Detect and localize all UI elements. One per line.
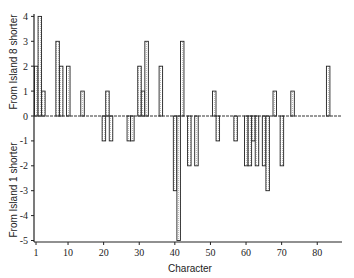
x-ticks: 11020304050607080	[34, 242, 323, 258]
bar-char-32	[145, 41, 149, 116]
bar-char-14	[81, 91, 85, 116]
bar-char-52	[216, 116, 220, 141]
y-tick-label: -5	[20, 235, 28, 246]
bar-chart: -5-4-3-2-101234 11020304050607080 Charac…	[0, 0, 354, 278]
bar-char-21	[106, 91, 110, 116]
bar-char-3	[42, 91, 46, 116]
bar-char-42	[180, 41, 184, 116]
bar-char-70	[280, 116, 284, 166]
bar-char-40	[173, 116, 177, 191]
bar-char-62	[252, 116, 256, 141]
bar-char-22	[109, 116, 113, 141]
x-tick-label: 1	[34, 247, 39, 258]
bars	[35, 16, 330, 240]
bar-char-28	[131, 116, 135, 141]
bar-char-61	[248, 116, 252, 166]
y-tick-label: -2	[20, 160, 28, 171]
y-ticks: -5-4-3-2-101234	[20, 11, 34, 246]
bar-char-7	[56, 41, 60, 116]
y-tick-label: 4	[23, 11, 28, 22]
y-tick-label: -3	[20, 185, 28, 196]
x-tick-label: 60	[241, 247, 251, 258]
bar-char-83	[326, 66, 330, 116]
y-axis-label-bottom: From Island 1 shorter	[8, 142, 19, 238]
y-tick-label: 2	[23, 61, 28, 72]
bar-char-65	[262, 116, 266, 166]
bar-char-10	[67, 66, 71, 116]
bar-char-2	[38, 16, 42, 116]
x-tick-label: 20	[99, 247, 109, 258]
bar-char-31	[141, 91, 145, 116]
bar-char-66	[266, 116, 270, 191]
y-tick-label: 0	[23, 111, 28, 122]
bar-char-27	[127, 116, 131, 141]
bar-char-41	[177, 116, 181, 241]
x-tick-label: 80	[312, 247, 322, 258]
bar-char-57	[234, 116, 238, 141]
bar-char-73	[291, 91, 295, 116]
bar-char-51	[213, 91, 217, 116]
bar-char-20	[102, 116, 106, 141]
y-tick-label: -4	[20, 210, 28, 221]
y-axis-label-top: From Island 8 shorter	[8, 14, 19, 110]
y-tick-label: -1	[20, 135, 28, 146]
y-tick-label: 3	[23, 36, 28, 47]
bar-char-36	[159, 66, 163, 116]
bar-char-46	[195, 116, 199, 166]
x-tick-label: 30	[134, 247, 144, 258]
x-tick-label: 40	[170, 247, 180, 258]
bar-char-60	[245, 116, 249, 166]
bar-char-1	[35, 66, 39, 116]
bar-char-44	[188, 116, 192, 166]
bar-char-8	[59, 66, 63, 116]
x-tick-label: 50	[205, 247, 215, 258]
x-axis-label: Character	[168, 263, 213, 274]
x-tick-label: 10	[63, 247, 73, 258]
bar-char-63	[255, 116, 259, 166]
bar-char-30	[138, 66, 142, 116]
y-tick-label: 1	[23, 86, 28, 97]
x-tick-label: 70	[277, 247, 287, 258]
bar-char-68	[273, 91, 277, 116]
